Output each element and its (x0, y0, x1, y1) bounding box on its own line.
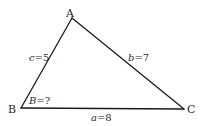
side-b-edge (72, 18, 184, 109)
angle-label-b: B=? (28, 95, 50, 106)
side-label-a: a=8 (91, 112, 112, 123)
side-label-c: c=5 (29, 52, 49, 63)
side-c-value: =5 (35, 52, 50, 63)
side-label-b: b=7 (128, 52, 149, 63)
triangle-diagram: A B C c=5 b=7 a=8 B=? (0, 0, 206, 126)
side-a-edge (21, 108, 184, 109)
vertex-label-b: B (8, 103, 16, 116)
vertex-label-c: C (187, 103, 195, 116)
side-b-value: =7 (134, 52, 149, 63)
vertex-label-a: A (65, 7, 75, 20)
angle-b-value: =? (36, 95, 50, 106)
angle-b-variable: B (28, 95, 36, 106)
side-a-value: =8 (97, 112, 112, 123)
